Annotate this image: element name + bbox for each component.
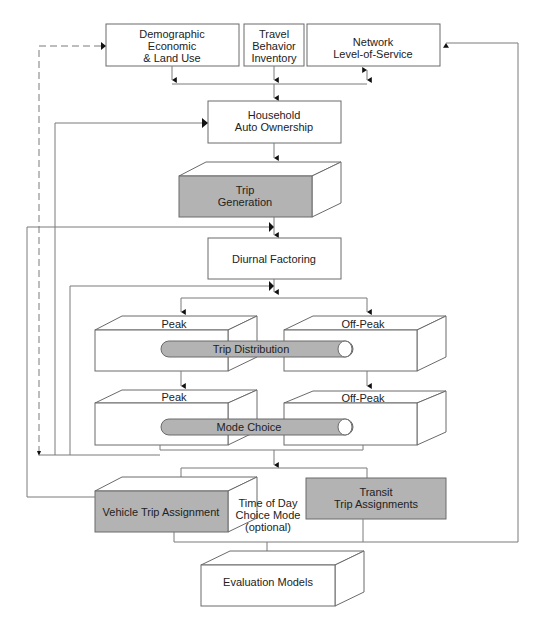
network-line-2: Level-of-Service: [333, 48, 412, 60]
trip-generation-line-1: Trip: [236, 184, 255, 196]
input-connectors: [172, 66, 367, 98]
evaluation-models-box: Evaluation Models: [201, 551, 364, 606]
network-box: Network Level-of-Service: [307, 24, 440, 66]
trip-distribution-label: Trip Distribution: [213, 343, 290, 355]
diurnal-label: Diurnal Factoring: [232, 253, 316, 265]
mode-offpeak-box: Off-Peak: [284, 391, 446, 445]
time-of-day-note: Time of Day Choice Mode (optional): [236, 497, 301, 533]
travel-demand-model-flowchart: Demographic Economic & Land Use Travel B…: [0, 0, 536, 629]
trip-generation-box: Trip Generation: [179, 162, 341, 217]
vehicle-assignment-label: Vehicle Trip Assignment: [103, 506, 220, 518]
network-line-1: Network: [353, 36, 394, 48]
transit-line-2: Trip Assignments: [334, 498, 418, 510]
trip-distribution-cylinder: Trip Distribution: [161, 341, 353, 357]
distribution-offpeak-label: Off-Peak: [341, 318, 385, 330]
note-line-1: Time of Day: [239, 497, 298, 509]
mode-offpeak-label: Off-Peak: [341, 392, 385, 404]
trip-generation-line-2: Generation: [218, 196, 272, 208]
transit-trip-assignments-box: Transit Trip Assignments: [306, 478, 446, 519]
mode-peak-box: Peak: [95, 390, 257, 445]
demographic-line-1: Demographic: [139, 28, 205, 40]
travel-behavior-box: Travel Behavior Inventory: [244, 24, 304, 66]
vehicle-trip-assignment-box: Vehicle Trip Assignment: [95, 477, 257, 532]
demographic-line-2: Economic: [148, 40, 197, 52]
demographic-line-3: & Land Use: [143, 52, 200, 64]
diurnal-factoring-box: Diurnal Factoring: [208, 238, 341, 279]
mode-choice-label: Mode Choice: [217, 421, 282, 433]
travel-line-2: Behavior: [252, 40, 296, 52]
distribution-peak-label: Peak: [161, 318, 187, 330]
mode-choice-cylinder: Mode Choice: [161, 419, 353, 435]
note-line-3: (optional): [245, 521, 291, 533]
household-line-1: Household: [248, 109, 301, 121]
demographic-box: Demographic Economic & Land Use: [106, 24, 239, 66]
household-line-2: Auto Ownership: [235, 121, 313, 133]
mode-peak-label: Peak: [161, 391, 187, 403]
evaluation-label: Evaluation Models: [223, 576, 313, 588]
feedback-right-to-network: [446, 43, 518, 542]
note-line-2: Choice Mode: [236, 509, 301, 521]
travel-line-3: Inventory: [251, 52, 297, 64]
household-auto-ownership-box: Household Auto Ownership: [208, 101, 341, 143]
transit-line-1: Transit: [359, 486, 392, 498]
feedback-dashed-to-demographic: [37, 42, 106, 456]
travel-line-1: Travel: [259, 28, 289, 40]
